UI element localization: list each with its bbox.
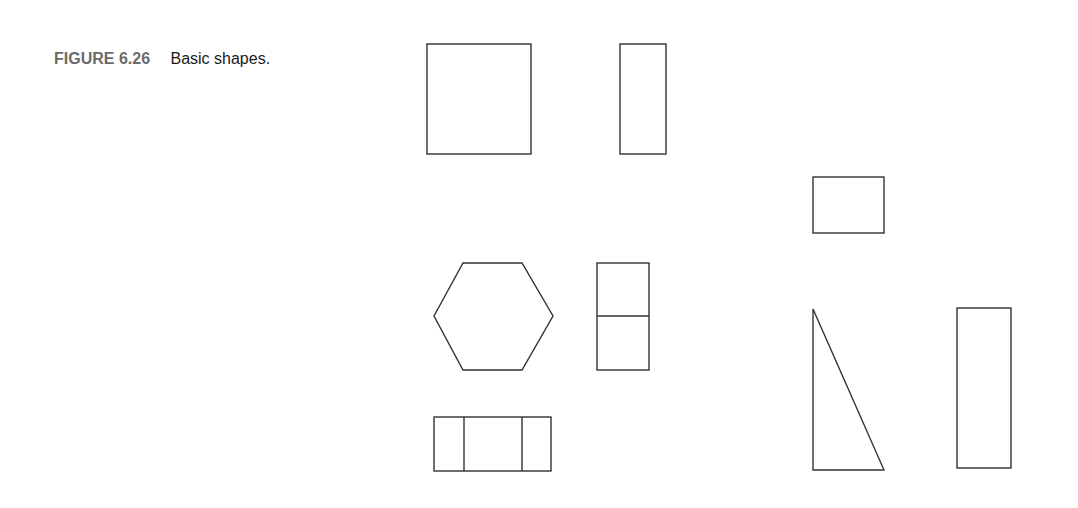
hexagon-shape bbox=[434, 263, 553, 370]
tall-rectangle-right-shape bbox=[957, 308, 1011, 468]
triple-rectangle-shape bbox=[434, 417, 551, 471]
tall-rectangle-top-shape bbox=[620, 44, 666, 154]
square-shape bbox=[427, 44, 531, 154]
small-rectangle-shape bbox=[813, 177, 884, 233]
split-rectangle-shape bbox=[597, 263, 649, 370]
right-triangle-shape bbox=[813, 309, 884, 470]
shapes-diagram bbox=[0, 0, 1078, 508]
